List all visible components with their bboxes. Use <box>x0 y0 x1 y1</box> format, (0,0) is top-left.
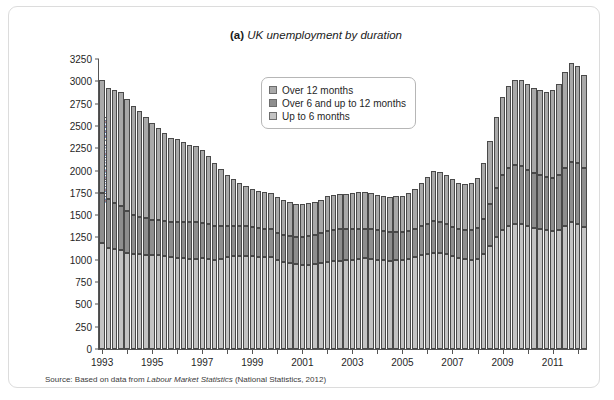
bar-segment-over-12-months <box>268 193 273 229</box>
bar-segment-over-6-up-to-12-months <box>575 163 580 224</box>
bar-segment-over-12-months <box>387 197 392 232</box>
x-axis-tick-label: 2007 <box>441 357 463 368</box>
bar-segment-up-to-6-months <box>406 259 411 349</box>
bar-segment-up-to-6-months <box>456 258 461 349</box>
bar-stack <box>131 59 136 349</box>
bar-segment-over-12-months <box>494 117 499 187</box>
bar-stack <box>137 59 142 349</box>
bar-segment-up-to-6-months <box>475 259 480 349</box>
figure-title-text: UK unemployment by duration <box>247 29 402 41</box>
bar-segment-over-12-months <box>106 88 111 199</box>
x-axis-tick-mark <box>227 349 228 354</box>
x-axis-tick-label: 2005 <box>391 357 413 368</box>
bar-segment-over-12-months <box>318 200 323 233</box>
bar-segment-over-12-months <box>525 84 530 169</box>
bar-segment-over-6-up-to-12-months <box>268 229 273 257</box>
bar-segment-over-6-up-to-12-months <box>537 175 542 229</box>
bar-segment-up-to-6-months <box>281 262 286 349</box>
bar-segment-over-6-up-to-12-months <box>512 165 517 224</box>
bar-segment-over-6-up-to-12-months <box>300 237 305 266</box>
bar-segment-over-6-up-to-12-months <box>387 232 392 261</box>
bar-segment-over-6-up-to-12-months <box>562 168 567 226</box>
bar-segment-over-6-up-to-12-months <box>200 223 205 259</box>
bar-segment-over-12-months <box>412 189 417 229</box>
bar-segment-up-to-6-months <box>356 259 361 349</box>
bar-stack <box>462 59 467 349</box>
x-axis-tick-label: 1997 <box>191 357 213 368</box>
x-axis-tick-mark <box>578 349 579 354</box>
bar-segment-over-6-up-to-12-months <box>356 229 361 259</box>
bar-segment-up-to-6-months <box>556 230 561 349</box>
x-axis-tick-label: 1995 <box>141 357 163 368</box>
bar-segment-over-12-months <box>256 191 261 228</box>
bar-segment-up-to-6-months <box>143 255 148 349</box>
bar-stack <box>556 59 561 349</box>
bar-segment-over-6-up-to-12-months <box>124 211 129 253</box>
bar-segment-over-12-months <box>512 80 517 165</box>
bar-segment-up-to-6-months <box>149 255 154 349</box>
bar-segment-over-6-up-to-12-months <box>581 168 586 227</box>
bar-segment-over-12-months <box>287 202 292 236</box>
x-axis-tick-mark <box>402 349 403 354</box>
bar-segment-up-to-6-months <box>218 259 223 349</box>
bar-segment-up-to-6-months <box>506 226 511 349</box>
legend-item-label: Over 6 and up to 12 months <box>282 98 406 109</box>
bar-stack <box>550 59 555 349</box>
bar-stack <box>237 59 242 349</box>
bar-segment-over-6-up-to-12-months <box>137 217 142 255</box>
source-prefix: Source: Based on data from <box>45 375 145 384</box>
bar-segment-over-12-months <box>506 86 511 168</box>
bar-stack <box>106 59 111 349</box>
bar-stack <box>444 59 449 349</box>
bar-segment-over-12-months <box>575 66 580 163</box>
y-axis-tick-mark <box>95 215 99 216</box>
bar-stack <box>231 59 236 349</box>
bar-stack <box>419 59 424 349</box>
bar-segment-over-12-months <box>400 196 405 233</box>
bar-segment-up-to-6-months <box>200 258 205 349</box>
bar-segment-over-12-months <box>481 163 486 218</box>
bar-segment-over-12-months <box>187 145 192 223</box>
bar-segment-over-6-up-to-12-months <box>293 237 298 265</box>
bar-segment-over-6-up-to-12-months <box>193 222 198 259</box>
bar-segment-over-6-up-to-12-months <box>243 226 248 255</box>
bar-segment-over-6-up-to-12-months <box>312 235 317 264</box>
y-axis-tick-mark <box>95 148 99 149</box>
bar-segment-up-to-6-months <box>268 257 273 349</box>
bar-stack <box>250 59 255 349</box>
bar-segment-over-12-months <box>375 195 380 231</box>
bar-segment-up-to-6-months <box>362 258 367 349</box>
bar-segment-up-to-6-months <box>431 253 436 349</box>
bar-segment-over-6-up-to-12-months <box>218 226 223 259</box>
bar-segment-over-12-months <box>356 192 361 229</box>
bar-segment-over-12-months <box>462 184 467 230</box>
chart-legend: Over 12 monthsOver 6 and up to 12 months… <box>261 77 416 129</box>
bar-stack <box>118 59 123 349</box>
bar-stack <box>206 59 211 349</box>
bar-segment-over-12-months <box>419 183 424 226</box>
bar-segment-over-12-months <box>225 175 230 226</box>
bar-segment-up-to-6-months <box>381 260 386 349</box>
bar-segment-up-to-6-months <box>387 261 392 349</box>
bar-stack <box>500 59 505 349</box>
bar-segment-over-12-months <box>206 156 211 224</box>
y-axis-tick-mark <box>95 237 99 238</box>
bar-stack <box>487 59 492 349</box>
bar-segment-over-12-months <box>425 177 430 223</box>
bar-segment-over-12-months <box>406 193 411 231</box>
bar-segment-over-6-up-to-12-months <box>419 226 424 255</box>
bar-segment-over-6-up-to-12-months <box>331 230 336 261</box>
bar-segment-over-12-months <box>469 183 474 230</box>
bar-segment-up-to-6-months <box>124 253 129 349</box>
bar-segment-over-6-up-to-12-months <box>444 224 449 254</box>
bar-segment-up-to-6-months <box>462 259 467 349</box>
bar-segment-up-to-6-months <box>99 243 104 349</box>
bar-segment-over-6-up-to-12-months <box>118 206 123 251</box>
bar-segment-up-to-6-months <box>537 229 542 349</box>
bar-stack <box>431 59 436 349</box>
bar-segment-up-to-6-months <box>131 254 136 349</box>
bar-stack <box>562 59 567 349</box>
bar-stack <box>149 59 154 349</box>
bar-segment-up-to-6-months <box>419 255 424 349</box>
y-axis-tick-mark <box>95 81 99 82</box>
